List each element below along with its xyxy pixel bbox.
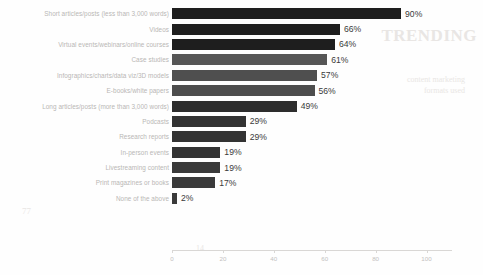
bar-track: 29% — [172, 114, 452, 129]
bar-row: Videos66% — [0, 21, 483, 36]
bar-category-label: Infographics/charts/data viz/3D models — [4, 72, 172, 79]
bar-row: None of the above2% — [0, 191, 483, 206]
bar-category-label: Virtual events/webinars/online courses — [4, 41, 172, 48]
bar-chart: TRENDING content marketing formats used … — [0, 0, 483, 275]
bar-value-label: 61% — [331, 55, 348, 65]
bar-value-label: 2% — [181, 193, 193, 203]
bar-segment — [172, 131, 246, 142]
x-axis-tick-label: 100 — [421, 255, 431, 262]
x-axis-tick-mark — [427, 250, 428, 253]
bar-track: 61% — [172, 52, 452, 67]
bar-category-label: Podcasts — [4, 118, 172, 125]
bar-track: 19% — [172, 160, 452, 175]
bar-track: 49% — [172, 98, 452, 113]
bar-segment — [172, 101, 297, 112]
x-axis-tick-label: 0 — [170, 255, 173, 262]
bar-segment — [172, 24, 340, 35]
bar-category-label: Short articles/posts (less than 3,000 wo… — [4, 10, 172, 17]
bar-segment — [172, 54, 327, 65]
bar-value-label: 57% — [321, 70, 338, 80]
bar-segment — [172, 85, 315, 96]
background-watermark-left: 77 — [22, 206, 31, 216]
bar-segment — [172, 147, 220, 158]
bar-value-label: 29% — [250, 116, 267, 126]
bar-category-label: In-person events — [4, 149, 172, 156]
bar-row: Livestreaming content19% — [0, 160, 483, 175]
bar-track: 17% — [172, 175, 452, 190]
bar-segment — [172, 39, 335, 50]
bar-category-label: Videos — [4, 26, 172, 33]
bar-row: Virtual events/webinars/online courses64… — [0, 37, 483, 52]
bar-track: 2% — [172, 191, 452, 206]
bar-category-label: Livestreaming content — [4, 164, 172, 171]
bar-category-label: Research reports — [4, 133, 172, 140]
x-axis-tick-label: 60 — [321, 255, 328, 262]
bar-category-label: Case studies — [4, 56, 172, 63]
bar-value-label: 90% — [405, 9, 422, 19]
bar-track: 19% — [172, 145, 452, 160]
x-axis-ticks: 020406080100 — [172, 250, 452, 268]
bar-value-label: 56% — [319, 86, 336, 96]
bar-track: 56% — [172, 83, 452, 98]
bar-track: 90% — [172, 6, 452, 21]
bar-segment — [172, 193, 177, 204]
x-axis-tick-label: 20 — [219, 255, 226, 262]
bar-category-label: Print magazines or books — [4, 179, 172, 186]
bar-segment — [172, 70, 317, 81]
bar-row: Case studies61% — [0, 52, 483, 67]
x-axis-tick-mark — [376, 250, 377, 253]
bar-row: Print magazines or books17% — [0, 175, 483, 190]
bar-category-label: None of the above — [4, 195, 172, 202]
x-axis-tick-mark — [172, 250, 173, 253]
x-axis-tick-label: 80 — [372, 255, 379, 262]
bar-track: 29% — [172, 129, 452, 144]
bar-row: Infographics/charts/data viz/3D models57… — [0, 68, 483, 83]
bar-row: Research reports29% — [0, 129, 483, 144]
x-axis-tick-mark — [325, 250, 326, 253]
bar-row: In-person events19% — [0, 145, 483, 160]
bar-value-label: 17% — [219, 178, 236, 188]
bar-value-label: 64% — [339, 39, 356, 49]
bar-category-label: E-books/white papers — [4, 87, 172, 94]
bar-track: 66% — [172, 21, 452, 36]
bar-row: E-books/white papers56% — [0, 83, 483, 98]
bar-rows-container: Short articles/posts (less than 3,000 wo… — [0, 6, 483, 206]
bar-value-label: 66% — [344, 24, 361, 34]
bar-value-label: 29% — [250, 132, 267, 142]
bar-value-label: 19% — [224, 147, 241, 157]
bar-category-label: Long articles/posts (more than 3,000 wor… — [4, 103, 172, 110]
bar-value-label: 19% — [224, 163, 241, 173]
bar-segment — [172, 177, 215, 188]
bar-track: 57% — [172, 68, 452, 83]
bar-row: Podcasts29% — [0, 114, 483, 129]
bar-segment — [172, 116, 246, 127]
bar-row: Long articles/posts (more than 3,000 wor… — [0, 98, 483, 113]
bar-track: 64% — [172, 37, 452, 52]
x-axis-tick-label: 40 — [270, 255, 277, 262]
bar-segment — [172, 162, 220, 173]
bar-value-label: 49% — [301, 101, 318, 111]
bar-segment — [172, 8, 401, 19]
x-axis-tick-mark — [223, 250, 224, 253]
x-axis-tick-mark — [274, 250, 275, 253]
bar-row: Short articles/posts (less than 3,000 wo… — [0, 6, 483, 21]
